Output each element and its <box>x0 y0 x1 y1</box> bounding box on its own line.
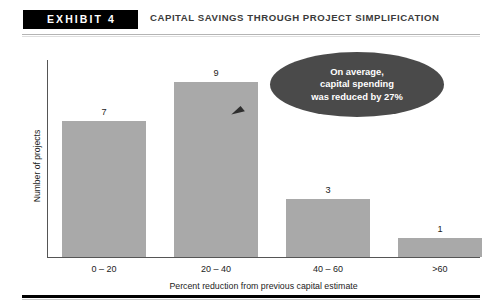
bar-0 <box>62 121 146 258</box>
annotation-callout: On average, capital spending was reduced… <box>270 52 444 117</box>
x-tick-label-3: >60 <box>398 264 482 274</box>
x-tick-label-1: 20 – 40 <box>174 264 258 274</box>
bar-2 <box>286 199 370 258</box>
footer-divider-shadow <box>22 299 480 300</box>
exhibit-figure: EXHIBIT 4 CAPITAL SAVINGS THROUGH PROJEC… <box>0 0 497 308</box>
callout-line-2: capital spending <box>320 78 394 90</box>
bar-value-3: 1 <box>398 224 482 234</box>
y-axis-line <box>47 60 48 258</box>
x-tick-label-2: 40 – 60 <box>286 264 370 274</box>
callout-line-1: On average, <box>330 66 384 78</box>
bar-3 <box>398 238 482 258</box>
bar-value-2: 3 <box>286 185 370 195</box>
callout-line-3: was reduced by 27% <box>311 91 403 103</box>
bar-chart: Number of projects 7 9 3 1 0 – 20 20 – 4… <box>0 0 497 308</box>
x-axis-label: Percent reduction from previous capital … <box>47 281 480 291</box>
y-axis-label: Number of projects <box>32 96 42 236</box>
bar-value-0: 7 <box>62 107 146 117</box>
bar-value-1: 9 <box>174 68 258 78</box>
x-tick-label-0: 0 – 20 <box>62 264 146 274</box>
bar-1 <box>174 82 258 258</box>
x-axis-line <box>47 257 480 258</box>
footer-divider <box>22 295 480 298</box>
